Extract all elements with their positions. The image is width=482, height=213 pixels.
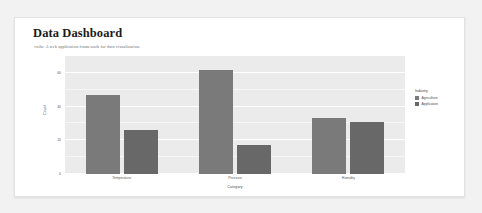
y-axis-tick-label: 0 [59, 172, 61, 176]
x-axis-tick-label: Humidity [342, 176, 355, 180]
y-axis-tick-labels: 0204060 [45, 56, 61, 174]
chart-legend: Industry AgricultureApplication [415, 89, 461, 108]
bar [199, 70, 233, 175]
bar-chart: Count 0204060 TemperaturePressureHumidit… [29, 56, 452, 192]
legend-label: Application [422, 102, 439, 106]
page-subtitle: voila: A web application framework for d… [34, 44, 140, 49]
dashboard-card: Data Dashboard voila: A web application … [14, 17, 465, 197]
plot-panel [65, 56, 405, 174]
bar [237, 145, 271, 174]
legend-label: Agriculture [422, 96, 438, 100]
page-root: Data Dashboard voila: A web application … [0, 0, 482, 213]
bar [86, 95, 120, 174]
bar [350, 122, 384, 174]
legend-item[interactable]: Agriculture [415, 96, 461, 100]
gridline-minor [65, 89, 405, 90]
gridline-major [65, 72, 405, 73]
page-title: Data Dashboard [33, 26, 122, 41]
bar [312, 118, 346, 174]
legend-swatch [415, 96, 419, 100]
legend-swatch [415, 102, 419, 106]
bar [124, 130, 158, 174]
y-axis-tick-label: 40 [57, 105, 61, 109]
legend-item[interactable]: Application [415, 102, 461, 106]
y-axis-tick-label: 20 [57, 138, 61, 142]
y-axis-tick-label: 60 [57, 71, 61, 75]
x-axis-tick-label: Pressure [228, 176, 242, 180]
x-axis-title: Category [65, 185, 405, 189]
x-axis-tick-label: Temperature [112, 176, 131, 180]
legend-title: Industry [415, 89, 461, 93]
x-axis-tick-labels: TemperaturePressureHumidity [65, 176, 405, 184]
